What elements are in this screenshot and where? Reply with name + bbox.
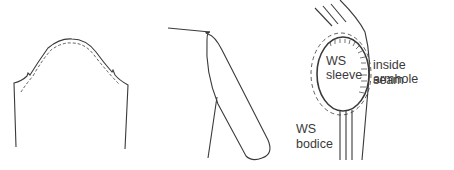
label-ws-sleeve-2: sleeve [326, 68, 362, 82]
sleeve-side-view [168, 28, 270, 160]
label-ws-bodice-1: WS [296, 122, 316, 136]
sleeve-cap-pattern [14, 39, 128, 149]
label-inside-armhole-2: seam [373, 73, 404, 87]
label-ws-bodice-2: bodice [296, 137, 333, 151]
label-ws-sleeve-1: WS [326, 54, 346, 68]
